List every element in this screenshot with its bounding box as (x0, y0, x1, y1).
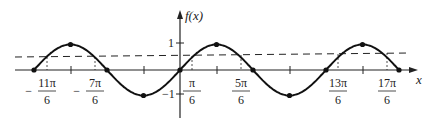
x-tick-label: 6 (335, 93, 341, 107)
x-tick-label: 5π (235, 76, 247, 90)
x-tick-label: 6 (92, 93, 98, 107)
x-axis-label: x (415, 72, 422, 87)
x-tick-label: 11π (38, 76, 56, 90)
key-point (31, 67, 36, 72)
key-point (360, 42, 365, 47)
key-point (287, 93, 292, 98)
x-tick-label: 6 (44, 93, 50, 107)
x-tick-label: 6 (384, 93, 390, 107)
key-point (323, 67, 328, 72)
x-tick-label: − (25, 84, 32, 98)
x-tick-label: − (73, 84, 80, 98)
sine-chart: f(x) 1 −1 x 11π6−7π6−π65π613π617π6 (0, 0, 436, 121)
key-point (214, 42, 219, 47)
x-tick-label: 13π (329, 76, 347, 90)
dashed-line-half (15, 53, 410, 57)
key-point (141, 93, 146, 98)
key-point (104, 67, 109, 72)
key-point (177, 67, 182, 72)
y-tick-label-neg1: −1 (162, 87, 175, 101)
y-axis-arrow-icon (177, 10, 183, 19)
key-point (68, 42, 73, 47)
x-tick-label: π (189, 76, 195, 90)
x-tick-label: 6 (189, 93, 195, 107)
key-point (396, 67, 401, 72)
y-axis-label: f(x) (185, 8, 203, 23)
x-tick-label: 6 (238, 93, 244, 107)
x-tick-labels: 11π6−7π6−π65π613π617π6 (25, 76, 396, 107)
x-tick-label: 7π (89, 76, 101, 90)
y-tick-label-1: 1 (168, 36, 174, 50)
key-point (250, 67, 255, 72)
x-tick-label: 17π (378, 76, 396, 90)
